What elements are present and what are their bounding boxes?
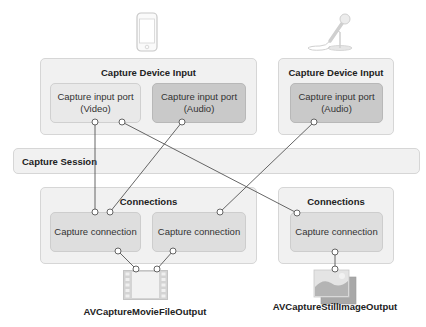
port-dot [154, 266, 160, 272]
connection-lines [0, 0, 426, 327]
port-dot [170, 248, 176, 254]
port-dot [115, 248, 121, 254]
port-dot [92, 119, 98, 125]
port-dot [332, 266, 338, 272]
port-dot [133, 266, 139, 272]
port-dot [179, 119, 185, 125]
port-dot [311, 119, 317, 125]
port-dot [119, 119, 125, 125]
port-dot [294, 210, 300, 216]
port-dot [332, 249, 338, 255]
port-dot [107, 209, 113, 215]
port-dot [92, 209, 98, 215]
port-dot [217, 209, 223, 215]
